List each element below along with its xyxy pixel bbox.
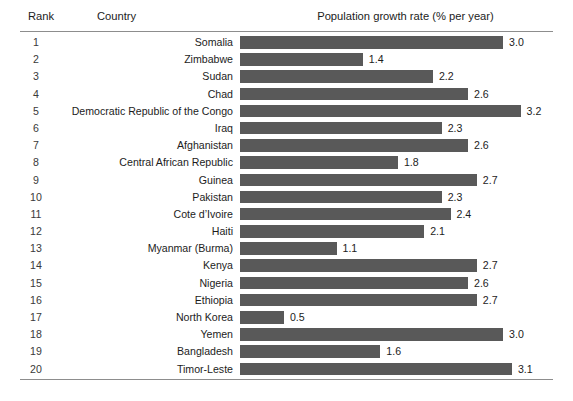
table-row: 4Chad2.6: [0, 86, 573, 103]
table-header: Rank Country Population growth rate (% p…: [0, 10, 573, 30]
cell-rank: 18: [20, 327, 52, 341]
table-row: 5Democratic Republic of the Congo3.2: [0, 103, 573, 120]
bar: [240, 122, 442, 135]
bar: [240, 294, 477, 307]
cell-rank: 7: [20, 138, 52, 152]
bar-value-label: 2.7: [483, 293, 498, 307]
table-row: 1Somalia3.0: [0, 34, 573, 51]
bar: [240, 105, 521, 118]
bar-value-label: 3.0: [509, 35, 524, 49]
cell-country: Myanmar (Burma): [55, 241, 233, 255]
cell-country: Guinea: [55, 173, 233, 187]
bar: [240, 191, 442, 204]
bar-value-label: 1.4: [369, 52, 384, 66]
cell-rank: 17: [20, 310, 52, 324]
column-header-population-growth-rate: Population growth rate (% per year): [238, 10, 573, 22]
bar-value-label: 3.0: [509, 327, 524, 341]
bar: [240, 70, 433, 83]
bar-value-label: 2.6: [474, 87, 489, 101]
cell-country: Bangladesh: [55, 344, 233, 358]
cell-rank: 14: [20, 258, 52, 272]
bar: [240, 363, 512, 376]
bar: [240, 345, 380, 358]
cell-rank: 20: [20, 362, 52, 376]
bar-value-label: 2.2: [439, 69, 454, 83]
bar: [240, 156, 398, 169]
cell-country: Timor-Leste: [55, 362, 233, 376]
bar: [240, 174, 477, 187]
table-row: 6Iraq2.3: [0, 120, 573, 137]
bar: [240, 36, 503, 49]
table-row: 3Sudan2.2: [0, 68, 573, 85]
cell-rank: 6: [20, 121, 52, 135]
footer-divider: [20, 379, 553, 380]
bar-value-label: 2.1: [430, 224, 445, 238]
bar-value-label: 1.1: [343, 241, 358, 255]
cell-country: Yemen: [55, 327, 233, 341]
bar: [240, 225, 424, 238]
table-row: 13Myanmar (Burma)1.1: [0, 240, 573, 257]
bar: [240, 139, 468, 152]
bar: [240, 277, 468, 290]
table-row: 10Pakistan2.3: [0, 189, 573, 206]
table-row: 12Haiti2.1: [0, 223, 573, 240]
cell-country: Democratic Republic of the Congo: [55, 104, 233, 118]
table-body: 1Somalia3.02Zimbabwe1.43Sudan2.24Chad2.6…: [0, 34, 573, 378]
bar: [240, 242, 337, 255]
cell-country: Nigeria: [55, 276, 233, 290]
bar-value-label: 2.3: [448, 121, 463, 135]
table-row: 11Cote d’Ivoire2.4: [0, 206, 573, 223]
table-row: 9Guinea2.7: [0, 172, 573, 189]
population-growth-rate-table: Rank Country Population growth rate (% p…: [0, 0, 573, 401]
cell-country: Zimbabwe: [55, 52, 233, 66]
table-row: 18Yemen3.0: [0, 326, 573, 343]
cell-country: Central African Republic: [55, 155, 233, 169]
cell-rank: 1: [20, 35, 52, 49]
cell-rank: 3: [20, 69, 52, 83]
bar-value-label: 1.6: [386, 344, 401, 358]
table-row: 16Ethiopia2.7: [0, 292, 573, 309]
bar: [240, 259, 477, 272]
cell-rank: 4: [20, 87, 52, 101]
cell-rank: 8: [20, 155, 52, 169]
cell-country: Somalia: [55, 35, 233, 49]
cell-country: Ethiopia: [55, 293, 233, 307]
table-row: 19Bangladesh1.6: [0, 343, 573, 360]
cell-country: Pakistan: [55, 190, 233, 204]
cell-country: Haiti: [55, 224, 233, 238]
cell-country: Afghanistan: [55, 138, 233, 152]
cell-country: Cote d’Ivoire: [55, 207, 233, 221]
bar: [240, 328, 503, 341]
bar: [240, 88, 468, 101]
table-row: 2Zimbabwe1.4: [0, 51, 573, 68]
table-row: 17North Korea0.5: [0, 309, 573, 326]
table-row: 8Central African Republic1.8: [0, 154, 573, 171]
bar-value-label: 2.7: [483, 258, 498, 272]
bar: [240, 311, 284, 324]
cell-rank: 15: [20, 276, 52, 290]
table-row: 14Kenya2.7: [0, 257, 573, 274]
bar-value-label: 3.2: [527, 104, 542, 118]
cell-rank: 11: [20, 207, 52, 221]
cell-country: North Korea: [55, 310, 233, 324]
bar-value-label: 3.1: [518, 362, 533, 376]
cell-country: Chad: [55, 87, 233, 101]
table-row: 7Afghanistan2.6: [0, 137, 573, 154]
table-row: 15Nigeria2.6: [0, 275, 573, 292]
cell-rank: 10: [20, 190, 52, 204]
cell-country: Iraq: [55, 121, 233, 135]
bar-value-label: 0.5: [290, 310, 305, 324]
cell-rank: 19: [20, 344, 52, 358]
table-row: 20Timor-Leste3.1: [0, 361, 573, 378]
cell-country: Sudan: [55, 69, 233, 83]
header-divider: [20, 31, 553, 32]
cell-rank: 13: [20, 241, 52, 255]
cell-rank: 9: [20, 173, 52, 187]
cell-rank: 12: [20, 224, 52, 238]
cell-rank: 16: [20, 293, 52, 307]
bar-value-label: 2.7: [483, 173, 498, 187]
column-header-country: Country: [0, 10, 233, 22]
cell-rank: 2: [20, 52, 52, 66]
bar: [240, 53, 363, 66]
cell-rank: 5: [20, 104, 52, 118]
